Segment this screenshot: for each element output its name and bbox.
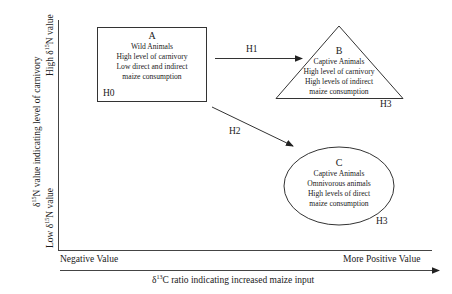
y-axis-high-label: High δ15N value	[45, 14, 56, 76]
node-a-letter: A	[98, 30, 206, 42]
node-b-line: maize consumption	[289, 87, 389, 97]
node-a-line: High level of carnivory	[98, 52, 206, 62]
node-a-line: maize consumption	[98, 72, 206, 82]
edge-h2-label: H2	[229, 126, 241, 137]
x-axis-title: δ13C ratio indicating increased maize in…	[152, 275, 314, 286]
node-a-line: Wild Animals	[98, 42, 206, 52]
node-c-line: Captive Animals	[289, 169, 389, 179]
y-axis-title: δ15N value indicating level of carnivory	[32, 7, 43, 207]
node-a-line: Low direct and indirect	[98, 62, 206, 72]
node-b-line: High levels of indirect	[289, 77, 389, 87]
node-a-tag: H0	[103, 88, 115, 99]
node-a: A Wild Animals High level of carnivory L…	[98, 30, 206, 82]
x-axis-right-label: More Positive Value	[343, 254, 420, 265]
node-c-letter: C	[289, 157, 389, 169]
node-c-line: High levels of direct	[289, 189, 389, 199]
node-c: C Captive Animals Omnivorous animals Hig…	[289, 157, 389, 209]
node-b: B Captive Animals High level of carnivor…	[289, 45, 389, 97]
node-b-line: High level of carnivory	[289, 67, 389, 77]
node-b-letter: B	[289, 45, 389, 57]
y-axis-low-label: Low δ15N value	[45, 188, 56, 248]
edge-h1-label: H1	[246, 44, 258, 55]
node-c-tag: H3	[376, 216, 388, 227]
node-c-line: Omnivorous animals	[289, 179, 389, 189]
node-c-line: maize consumption	[289, 199, 389, 209]
edge-h2-arrow	[212, 107, 293, 146]
x-axis-left-label: Negative Value	[60, 254, 118, 265]
node-b-line: Captive Animals	[289, 57, 389, 67]
node-b-tag: H3	[380, 99, 392, 110]
